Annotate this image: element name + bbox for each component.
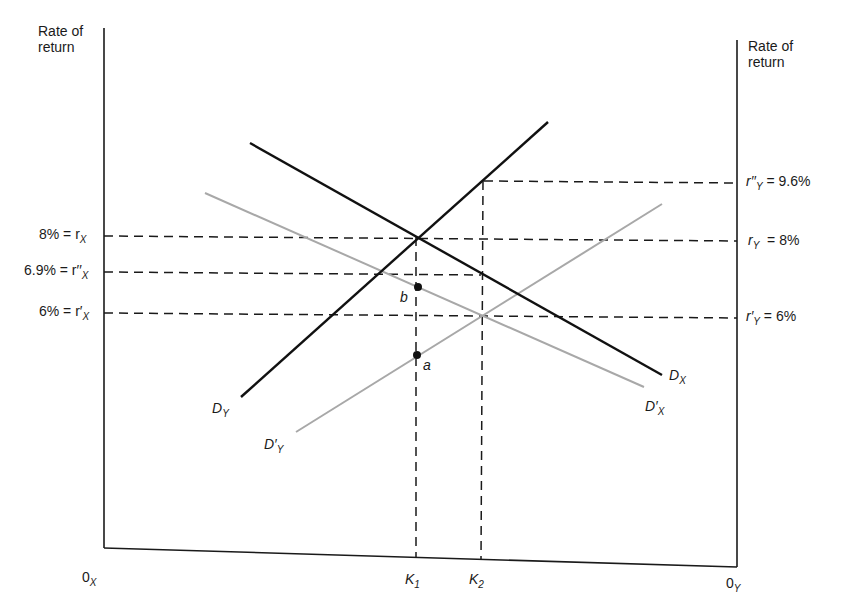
left-label-8pct: 8% = rX	[39, 226, 87, 248]
label-dy: DY	[212, 400, 229, 422]
bottom-axis	[104, 548, 737, 567]
left-label-6pct: 6% = r′X	[39, 303, 89, 325]
label-dx: DX	[669, 367, 686, 389]
right-label-9-6pct: r′′Y = 9.6%	[746, 173, 810, 195]
right-axis-title: Rate of return	[748, 38, 793, 70]
diagram-canvas	[0, 0, 841, 599]
left-axis-title: Rate of return	[38, 23, 83, 55]
dx-curve	[250, 143, 662, 375]
left-label-6-9pct: 6.9% = r′′X	[24, 262, 88, 284]
dashed-9-6pct	[484, 181, 737, 183]
label-origin-y: 0Y	[726, 575, 740, 597]
label-k1: K1	[405, 571, 420, 593]
label-dx-prime: D′X	[645, 398, 664, 420]
dashed-k2	[481, 181, 483, 560]
dashed-6-9pct	[104, 272, 481, 275]
label-point-a: a	[423, 357, 431, 373]
label-k2: K2	[469, 571, 484, 593]
label-origin-x: 0X	[82, 569, 96, 591]
right-label-6pct: r′Y = 6%	[746, 308, 796, 330]
right-label-8pct: rY = 8%	[748, 232, 799, 254]
label-dy-prime: D′Y	[264, 436, 283, 458]
label-point-b: b	[400, 289, 408, 305]
point-b	[414, 283, 422, 291]
dashed-6pct	[104, 313, 737, 318]
point-a	[413, 351, 421, 359]
